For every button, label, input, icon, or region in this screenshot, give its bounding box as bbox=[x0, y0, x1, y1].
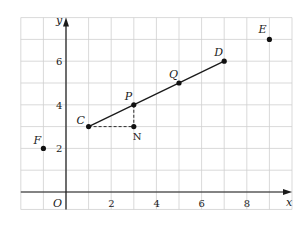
x-axis-arrow-icon bbox=[283, 189, 292, 195]
point-label-N: N bbox=[133, 131, 142, 142]
y-tick-label: 6 bbox=[56, 56, 62, 67]
point-F bbox=[41, 146, 46, 151]
y-axis-label: y bbox=[55, 14, 63, 27]
point-N bbox=[131, 124, 136, 129]
coordinate-plane: x y O 2468246 CPQDEFN bbox=[0, 0, 307, 229]
tick-labels: 2468246 bbox=[56, 56, 250, 209]
point-label-Q: Q bbox=[169, 68, 178, 81]
grid-lines bbox=[21, 18, 292, 210]
point-label-P: P bbox=[124, 90, 133, 103]
origin-label: O bbox=[53, 197, 62, 210]
y-axis-arrow-icon bbox=[63, 18, 69, 27]
point-label-E: E bbox=[257, 23, 266, 36]
axes: x y O bbox=[21, 14, 293, 210]
x-axis-label: x bbox=[286, 196, 293, 209]
x-tick-label: 8 bbox=[244, 198, 250, 209]
point-Q bbox=[176, 80, 181, 85]
x-tick-label: 4 bbox=[153, 198, 159, 209]
point-D bbox=[222, 59, 227, 64]
y-tick-label: 4 bbox=[56, 100, 62, 111]
y-tick-label: 2 bbox=[56, 143, 62, 154]
point-E bbox=[267, 37, 272, 42]
point-label-C: C bbox=[77, 114, 86, 127]
point-P bbox=[131, 102, 136, 107]
point-label-F: F bbox=[32, 134, 41, 147]
point-label-D: D bbox=[213, 46, 223, 59]
points: CPQDEFN bbox=[32, 23, 272, 151]
x-tick-label: 2 bbox=[108, 198, 114, 209]
x-tick-label: 6 bbox=[199, 198, 205, 209]
point-C bbox=[86, 124, 91, 129]
